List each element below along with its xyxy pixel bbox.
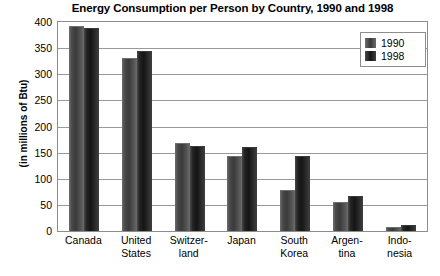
bar-switzerland-1998 [190, 146, 205, 231]
bar-group [111, 22, 164, 231]
bar-south-korea-1998 [295, 156, 310, 231]
bar-switzerland-1990 [175, 143, 190, 231]
y-tick-350: 350 [6, 42, 52, 54]
x-tick-line-1: Switzer- [162, 234, 215, 247]
bar-group [269, 22, 322, 231]
legend-swatch-1998 [365, 51, 376, 61]
x-tick-line-2: tina [321, 247, 374, 260]
bar-canada-1990 [69, 26, 84, 231]
x-tick-line-1: Japan [215, 234, 268, 247]
x-axis-tick-labels: CanadaUnitedStatesSwitzer-landJapanSouth… [57, 234, 428, 276]
bar-argentina-1998 [348, 196, 363, 231]
x-tick-line-1: Indo- [373, 234, 426, 247]
bar-indonesia-1990 [386, 227, 401, 231]
x-tick-united-states: UnitedStates [110, 234, 163, 260]
y-tick-200: 200 [6, 121, 52, 133]
x-tick-line-1: Argen- [321, 234, 374, 247]
y-tick-400: 400 [6, 16, 52, 28]
x-tick-canada: Canada [57, 234, 110, 247]
x-tick-argentina: Argen-tina [321, 234, 374, 260]
y-tick-50: 50 [6, 199, 52, 211]
chart-legend: 19901998 [360, 32, 426, 67]
x-tick-switzerland: Switzer-land [162, 234, 215, 260]
y-tick-0: 0 [6, 225, 52, 237]
x-tick-south-korea: SouthKorea [268, 234, 321, 260]
legend-label-1990: 1990 [381, 37, 404, 49]
legend-label-1998: 1998 [381, 50, 404, 62]
y-tick-250: 250 [6, 94, 52, 106]
legend-item-1998: 1998 [365, 50, 421, 62]
bar-group [58, 22, 111, 231]
legend-item-1990: 1990 [365, 37, 421, 49]
chart-title: Energy Consumption per Person by Country… [30, 0, 435, 16]
bar-united-states-1990 [122, 58, 137, 231]
bar-argentina-1990 [333, 202, 348, 231]
bar-south-korea-1990 [280, 190, 295, 231]
y-axis-tick-labels: 400350300250200150100500 [0, 21, 52, 232]
x-tick-line-2: Korea [268, 247, 321, 260]
bar-group [163, 22, 216, 231]
bar-japan-1990 [227, 156, 242, 231]
bar-japan-1998 [242, 147, 257, 231]
legend-swatch-1990 [365, 38, 376, 48]
bar-indonesia-1998 [401, 225, 416, 231]
x-tick-line-1: South [268, 234, 321, 247]
y-tick-150: 150 [6, 147, 52, 159]
x-tick-line-1: United [110, 234, 163, 247]
bar-canada-1998 [84, 28, 99, 231]
bar-group [216, 22, 269, 231]
x-tick-japan: Japan [215, 234, 268, 247]
y-tick-300: 300 [6, 68, 52, 80]
x-tick-indonesia: Indo-nesia [373, 234, 426, 260]
y-tick-100: 100 [6, 173, 52, 185]
x-tick-line-2: land [162, 247, 215, 260]
x-tick-line-1: Canada [57, 234, 110, 247]
x-tick-line-2: States [110, 247, 163, 260]
bar-united-states-1998 [137, 51, 152, 231]
chart-container: Energy Consumption per Person by Country… [0, 0, 440, 276]
x-tick-line-2: nesia [373, 247, 426, 260]
